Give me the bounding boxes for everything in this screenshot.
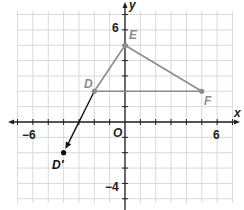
point-d-prime (61, 150, 66, 155)
y-axis-up-arrow-icon (123, 2, 128, 8)
y-tick-label-neg4: −4 (105, 180, 119, 194)
origin-label: O (113, 126, 123, 140)
point-e-label: E (129, 28, 138, 42)
translation-vector (65, 91, 94, 149)
x-tick-label-pos6: 6 (213, 128, 220, 142)
point-d-prime-label: D′ (52, 158, 65, 172)
y-axis (123, 2, 128, 210)
x-axis-right-arrow-icon (234, 120, 240, 125)
segment-ef (125, 45, 202, 91)
point-f-label: F (204, 94, 212, 108)
coordinate-plane: x y O −6 6 6 −4 D E F D′ (0, 0, 244, 210)
vector-d-to-dprime (69, 91, 95, 143)
point-e (122, 43, 127, 48)
x-tick-label-neg6: −6 (22, 128, 36, 142)
x-axis-left-arrow-icon (8, 120, 14, 125)
triangle-def (94, 45, 201, 91)
y-axis-label: y (128, 0, 137, 12)
x-axis (8, 120, 240, 125)
x-axis-label: x (233, 106, 242, 120)
y-tick-label-pos6: 6 (112, 21, 119, 35)
point-d-label: D (84, 77, 93, 91)
